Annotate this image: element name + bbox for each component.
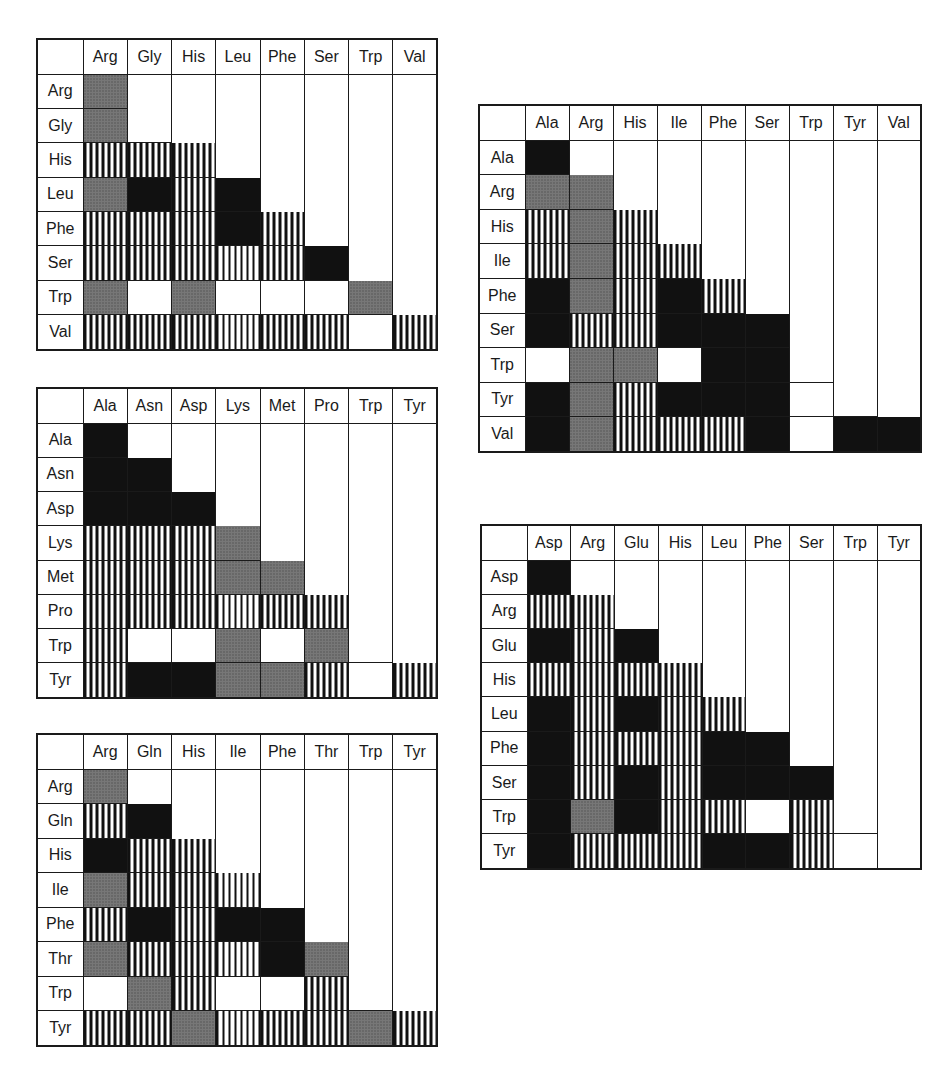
column-header: Phe (746, 525, 790, 560)
row-header: Phe (479, 278, 525, 313)
column-header: Tyr (393, 388, 437, 423)
empty-upper-cell (701, 244, 745, 279)
empty-upper-cell (877, 175, 921, 210)
substitution-cell (657, 382, 701, 417)
row-header: Trp (479, 348, 525, 383)
substitution-cell (83, 109, 127, 143)
substitution-cell (172, 594, 216, 628)
substitution-cell (216, 1011, 260, 1046)
empty-upper-cell (701, 209, 745, 244)
substitution-cell (83, 457, 127, 491)
column-header: Ile (216, 734, 260, 769)
empty-upper-cell (393, 74, 437, 108)
empty-upper-cell (304, 143, 348, 177)
row-header: Arg (37, 74, 83, 108)
substitution-cell (525, 382, 569, 417)
empty-upper-cell (127, 769, 171, 803)
grid-row: Tyr (37, 663, 437, 698)
column-header: Trp (349, 388, 393, 423)
column-header: Tyr (877, 525, 921, 560)
grid-row: Glu (481, 629, 921, 663)
empty-upper-cell (260, 526, 304, 560)
substitution-cell (127, 212, 171, 246)
substitution-cell (527, 594, 571, 628)
column-header: Val (393, 39, 437, 74)
substitution-cell (613, 278, 657, 313)
column-header: Trp (833, 525, 877, 560)
empty-upper-cell (790, 594, 834, 628)
grid-row: Arg (37, 74, 437, 108)
empty-upper-cell (569, 140, 613, 175)
substitution-cell (525, 278, 569, 313)
empty-upper-cell (349, 526, 393, 560)
grid-row: His (481, 663, 921, 697)
empty-upper-cell (877, 278, 921, 313)
substitution-cell (127, 838, 171, 872)
grid-row: Met (37, 560, 437, 594)
substitution-cell (877, 834, 921, 869)
empty-upper-cell (877, 348, 921, 383)
empty-upper-cell (172, 769, 216, 803)
empty-upper-cell (877, 629, 921, 663)
empty-upper-cell (658, 594, 702, 628)
substitution-cell (569, 417, 613, 452)
substitution-cell (127, 629, 171, 663)
substitution-cell (569, 313, 613, 348)
substitution-cell (83, 663, 127, 698)
row-header: Val (479, 417, 525, 452)
empty-upper-cell (304, 560, 348, 594)
grid-row: Trp (479, 348, 921, 383)
column-header: Trp (349, 39, 393, 74)
substitution-cell (615, 663, 659, 697)
grid-row: Thr (37, 942, 437, 976)
empty-upper-cell (746, 560, 790, 594)
empty-upper-cell (260, 492, 304, 526)
substitution-cell (571, 594, 615, 628)
substitution-cell (216, 663, 260, 698)
grid-row: Phe (479, 278, 921, 313)
substitution-cell (83, 74, 127, 108)
substitution-cell (127, 1011, 171, 1046)
empty-upper-cell (349, 873, 393, 907)
empty-upper-cell (789, 278, 833, 313)
substitution-cell (349, 663, 393, 698)
column-header: Gly (127, 39, 171, 74)
row-header: Ile (37, 873, 83, 907)
substitution-cell (527, 800, 571, 834)
substitution-cell (127, 143, 171, 177)
empty-upper-cell (393, 594, 437, 628)
empty-upper-cell (657, 175, 701, 210)
substitution-cell (216, 246, 260, 280)
grid-5: AspArgGluHisLeuPheSerTrpTyrAspArgGluHisL… (480, 524, 922, 870)
empty-upper-cell (833, 140, 877, 175)
empty-upper-cell (877, 765, 921, 799)
grid-row: Arg (37, 769, 437, 803)
substitution-cell (216, 594, 260, 628)
substitution-cell (260, 663, 304, 698)
substitution-cell (127, 942, 171, 976)
empty-upper-cell (349, 74, 393, 108)
column-header: Glu (615, 525, 659, 560)
substitution-cell (571, 731, 615, 765)
empty-upper-cell (172, 457, 216, 491)
empty-upper-cell (349, 457, 393, 491)
substitution-cell (216, 976, 260, 1010)
row-header: Ser (481, 765, 527, 799)
substitution-cell (83, 873, 127, 907)
empty-upper-cell (702, 594, 746, 628)
substitution-cell (260, 907, 304, 941)
grid-row: Arg (479, 175, 921, 210)
grid-row: Tyr (37, 1011, 437, 1046)
grid-row: Ala (479, 140, 921, 175)
grid-row: Gln (37, 804, 437, 838)
empty-upper-cell (393, 246, 437, 280)
substitution-cell (833, 800, 877, 834)
grid-row: His (37, 838, 437, 872)
substitution-cell (172, 873, 216, 907)
empty-upper-cell (127, 423, 171, 457)
substitution-cell (172, 246, 216, 280)
substitution-cell (569, 209, 613, 244)
column-header: Arg (83, 39, 127, 74)
substitution-cell (127, 280, 171, 314)
substitution-cell (615, 629, 659, 663)
